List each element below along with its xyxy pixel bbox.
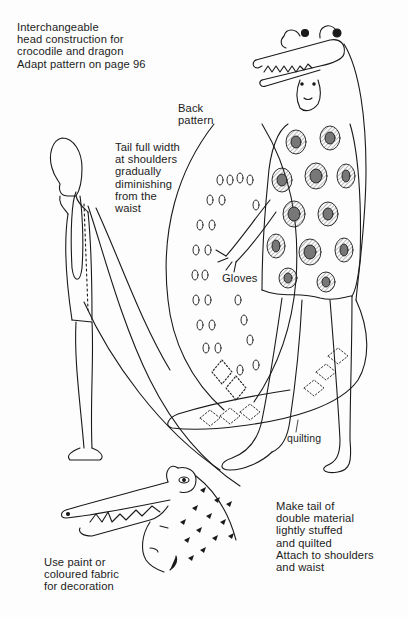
head-construction-note: Interchangeable head construction for cr… [17, 21, 146, 70]
child-outline-figure [50, 138, 102, 460]
tail-material-note: Make tail of double material lightly stu… [276, 500, 374, 573]
decoration-note: Use paint or coloured fabric for decorat… [44, 556, 119, 593]
tail-width-line: Tail full width [115, 141, 180, 153]
decoration-line: for decoration [44, 580, 119, 592]
tail-width-line: gradually [115, 165, 180, 177]
costume-tail [168, 300, 367, 432]
head-note-line: Adapt pattern on page 96 [17, 58, 146, 70]
tail-material-line: Make tail of [276, 500, 374, 512]
tail-material-line: double material [276, 512, 374, 524]
back-pattern-line: pattern [178, 114, 214, 126]
tail-material-line: lightly stuffed [276, 524, 374, 536]
decoration-line: coloured fabric [44, 568, 119, 580]
back-pattern-label: Back pattern [178, 102, 214, 126]
back-pattern-shape [166, 124, 297, 410]
gloves-label: Gloves [222, 272, 257, 284]
costumed-child-figure [216, 26, 366, 473]
head-note-line: head construction for [17, 33, 146, 45]
tail-material-line: Attach to shoulders [276, 549, 374, 561]
tail-width-line: waist [115, 202, 180, 214]
decoration-triangles [180, 487, 234, 561]
tail-width-line: diminishing [115, 178, 180, 190]
quilting-label: quilting [287, 432, 321, 444]
tail-width-line: at shoulders [115, 153, 180, 165]
tail-material-line: and waist [276, 561, 374, 573]
tail-outline [84, 206, 240, 486]
tail-material-line: and quilted [276, 537, 374, 549]
tail-width-note: Tail full width at shoulders gradually d… [115, 141, 180, 214]
tail-width-line: from the [115, 190, 180, 202]
illustration-page: Interchangeable head construction for cr… [0, 0, 408, 617]
head-note-line: crocodile and dragon [17, 45, 146, 57]
decoration-line: Use paint or [44, 556, 119, 568]
back-pattern-line: Back [178, 102, 214, 114]
head-note-line: Interchangeable [17, 21, 146, 33]
